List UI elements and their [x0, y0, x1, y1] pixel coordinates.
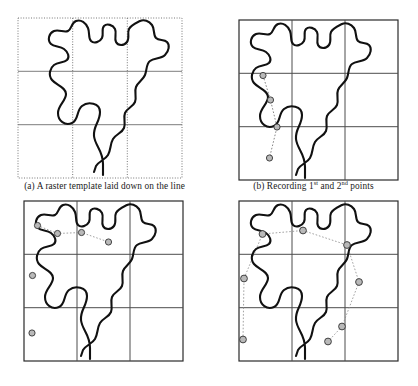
panel-a-caption: (a) A raster template laid down on the l…	[0, 181, 209, 191]
sample-point-marker	[260, 72, 266, 78]
panel-c	[0, 193, 209, 386]
panel-a-caption-text: (a) A raster template laid down on the l…	[24, 181, 185, 191]
sample-point-marker	[54, 230, 60, 236]
panel-b-caption-mid: and 2	[318, 181, 341, 191]
coastline-curve	[36, 204, 156, 359]
panel-c-graphic	[0, 193, 209, 386]
sample-point-marker	[34, 222, 40, 228]
sample-point-marker	[344, 242, 351, 249]
panel-b-caption-post: points	[348, 181, 374, 191]
sample-point-marker	[274, 124, 280, 130]
sample-point-marker	[78, 229, 84, 235]
panel-d	[209, 193, 418, 386]
sample-point-marker	[300, 227, 307, 234]
coastline-curve	[49, 20, 169, 175]
panel-d-markers	[240, 227, 363, 345]
sample-point-marker	[356, 279, 363, 286]
sample-point-marker	[259, 231, 266, 238]
sample-point-marker	[29, 272, 35, 278]
sample-point-marker	[105, 239, 111, 245]
coastline-curve	[251, 204, 371, 359]
panel-b-caption-pre: (b) Recording 1	[253, 181, 313, 191]
sample-point-marker	[339, 323, 346, 330]
sample-point-marker	[29, 330, 35, 336]
sample-point-marker	[325, 338, 332, 345]
panel-b-graphic	[209, 0, 418, 193]
sample-point-marker	[267, 97, 273, 103]
sample-point-marker	[266, 155, 272, 161]
connector-line	[263, 76, 277, 159]
panel-c-connectors	[32, 226, 109, 334]
panel-c-markers	[29, 222, 112, 336]
figure-root: (a) A raster template laid down on the l…	[0, 0, 418, 386]
panel-b-connectors	[263, 76, 277, 159]
panel-a-graphic	[0, 0, 209, 193]
sample-point-marker	[240, 336, 247, 343]
panel-d-graphic	[209, 193, 418, 386]
panel-b: (b) Recording 1st and 2nd points	[209, 0, 418, 193]
panel-b-caption: (b) Recording 1st and 2nd points	[209, 181, 418, 191]
panel-a: (a) A raster template laid down on the l…	[0, 0, 209, 193]
grid-border	[18, 18, 182, 178]
sample-point-marker	[241, 275, 248, 282]
connector-line	[38, 226, 109, 243]
panel-a-grid	[18, 18, 182, 178]
panel-b-markers	[260, 72, 280, 161]
